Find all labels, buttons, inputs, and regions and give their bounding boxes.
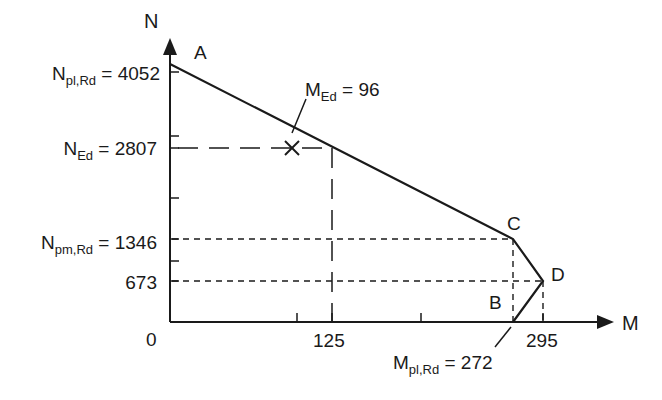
cd-guides bbox=[172, 239, 543, 322]
npm-main: N bbox=[41, 232, 55, 253]
med-main: M bbox=[305, 79, 321, 100]
y-axis-label: N bbox=[144, 11, 158, 31]
mpl-main: M bbox=[393, 352, 409, 373]
ned-main: N bbox=[63, 138, 77, 159]
x-ticks bbox=[297, 313, 543, 322]
x-axis-label: M bbox=[622, 313, 639, 333]
point-a-label: A bbox=[194, 43, 207, 62]
npm-value: = 1346 bbox=[98, 232, 157, 253]
point-d-label: D bbox=[551, 265, 565, 284]
npl-main: N bbox=[52, 63, 66, 84]
m295-label: 295 bbox=[526, 331, 558, 350]
n673-label: 673 bbox=[125, 273, 157, 292]
point-c-label: C bbox=[507, 214, 521, 233]
y-axis-arrow-icon bbox=[163, 38, 177, 55]
mpl-rd-label: Mpl,Rd = 272 bbox=[393, 353, 493, 372]
interaction-curve bbox=[170, 64, 543, 322]
npl-value: = 4052 bbox=[101, 63, 160, 84]
mpl-value: = 272 bbox=[444, 352, 492, 373]
x-axis-arrow-icon bbox=[597, 315, 614, 329]
npl-sub: pl,Rd bbox=[66, 73, 96, 88]
npl-rd-label: Npl,Rd = 4052 bbox=[52, 64, 160, 83]
med-leader-line bbox=[292, 99, 306, 133]
mpl-leader-line bbox=[495, 327, 511, 347]
point-b-label: B bbox=[489, 293, 502, 312]
npm-rd-label: Npm,Rd = 1346 bbox=[41, 233, 157, 252]
ned-guides bbox=[178, 148, 332, 322]
med-annotation: MEd = 96 bbox=[305, 80, 380, 99]
med-value: = 96 bbox=[342, 79, 380, 100]
npm-sub: pm,Rd bbox=[55, 242, 93, 257]
y-ticks bbox=[170, 72, 179, 281]
m125-label: 125 bbox=[313, 331, 345, 350]
med-sub: Ed bbox=[321, 89, 337, 104]
ned-label: NEd = 2807 bbox=[63, 139, 157, 158]
ned-sub: Ed bbox=[77, 148, 93, 163]
ned-value: = 2807 bbox=[98, 138, 157, 159]
mpl-sub: pl,Rd bbox=[409, 362, 439, 377]
origin-label: 0 bbox=[146, 330, 157, 349]
